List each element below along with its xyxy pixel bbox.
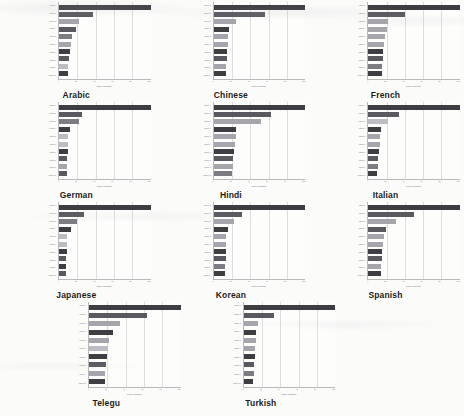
bar-row [89, 362, 181, 367]
y-axis-tick-label: feature 10 [358, 75, 365, 77]
bar [368, 134, 380, 139]
bar [368, 42, 384, 47]
x-axis-ticks: 020406080100 [213, 180, 306, 184]
bar [59, 56, 69, 61]
y-axis-labels: feature 1feature 2feature 3feature 4feat… [311, 102, 367, 180]
bar-row [59, 142, 151, 147]
bar-row [214, 212, 306, 217]
bar [368, 219, 395, 224]
bar-row [59, 27, 151, 32]
x-axis-title: relative importance [367, 184, 460, 187]
bar [368, 171, 377, 176]
panel-title: Italian [311, 190, 460, 200]
bars-plot [58, 102, 151, 180]
bar-row [89, 346, 181, 351]
bars-plot [367, 102, 460, 180]
y-axis-tick-label: feature 4 [50, 128, 56, 130]
y-axis-tick-label: feature 2 [204, 212, 210, 214]
bar-row [214, 71, 306, 76]
y-axis-tick-label: feature 7 [50, 51, 56, 53]
bar-row [368, 164, 460, 169]
x-axis: 020406080100relative importance [187, 388, 336, 397]
bar-row [59, 34, 151, 39]
y-axis-tick-label: feature 5 [204, 236, 210, 238]
bar-row [214, 64, 306, 69]
bar-row [368, 5, 460, 10]
bar-row [368, 56, 460, 61]
bar-row [368, 212, 460, 217]
plot-area: feature 1feature 2feature 3feature 4feat… [157, 202, 306, 280]
bar-row [59, 242, 151, 247]
bar [368, 212, 414, 217]
bar [214, 56, 228, 61]
y-axis-tick-label: feature 9 [204, 167, 210, 169]
bar [59, 242, 67, 247]
bar-row [368, 34, 460, 39]
x-axis: 020406080100relative importance [157, 280, 306, 289]
bar [89, 354, 107, 359]
y-axis-tick-label: feature 8 [50, 159, 56, 161]
bar [59, 12, 93, 17]
bar-row [89, 313, 181, 318]
bar-row [214, 5, 306, 10]
bars-plot [88, 302, 181, 388]
bar [214, 256, 226, 261]
bar-row [368, 12, 460, 17]
bar [214, 42, 229, 47]
bar-row [368, 156, 460, 161]
bar [59, 49, 70, 54]
y-axis-tick-label: feature 1 [204, 5, 210, 7]
y-axis-tick-label: feature 10 [358, 175, 365, 177]
bar-row [244, 321, 336, 326]
bar-row [244, 362, 336, 367]
bar [89, 338, 109, 343]
plot-area: feature 1feature 2feature 3feature 4feat… [311, 202, 460, 280]
bar-row [368, 271, 460, 276]
bar [368, 142, 380, 147]
y-axis-tick-label: feature 2 [234, 314, 240, 316]
bar-row [368, 19, 460, 24]
bar [214, 49, 228, 54]
chart-grid: feature 1feature 2feature 3feature 4feat… [0, 0, 464, 408]
panel-title: Arabic [2, 90, 151, 100]
y-axis-tick-label: feature 9 [359, 267, 365, 269]
y-axis-tick-label: feature 10 [49, 275, 56, 277]
bar [214, 156, 233, 161]
bar-row [59, 234, 151, 239]
y-axis-tick-label: feature 8 [204, 259, 210, 261]
y-axis-tick-label: feature 6 [204, 244, 210, 246]
bar-row [59, 227, 151, 232]
bar [244, 321, 259, 326]
bar [214, 234, 227, 239]
x-axis: 020406080100relative importance [311, 280, 460, 289]
bar-row [214, 234, 306, 239]
chart-panel-french: feature 1feature 2feature 3feature 4feat… [309, 0, 464, 100]
bar-row [368, 242, 460, 247]
bar-row [214, 164, 306, 169]
y-axis-tick-label: feature 9 [80, 374, 86, 376]
y-axis-tick-label: feature 7 [80, 357, 86, 359]
y-axis-tick-label: feature 5 [359, 236, 365, 238]
y-axis-tick-label: feature 1 [204, 105, 210, 107]
plot-area: feature 1feature 2feature 3feature 4feat… [157, 2, 306, 80]
y-axis-tick-label: feature 5 [50, 36, 56, 38]
y-axis-tick-label: feature 2 [50, 112, 56, 114]
bar [59, 27, 76, 32]
bar-row [59, 205, 151, 210]
y-axis-tick-label: feature 8 [204, 159, 210, 161]
plot-area: feature 1feature 2feature 3feature 4feat… [311, 102, 460, 180]
y-axis-tick-label: feature 8 [204, 59, 210, 61]
x-axis: 020406080100relative importance [157, 180, 306, 189]
bar-row [214, 105, 306, 110]
bar-row [368, 149, 460, 154]
bar-row [368, 205, 460, 210]
bar-row [368, 42, 460, 47]
bars-plot [213, 2, 306, 80]
y-axis-tick-label: feature 4 [80, 331, 86, 333]
x-axis: 020406080100relative importance [2, 80, 151, 89]
bar [214, 227, 229, 232]
y-axis-tick-label: feature 2 [359, 12, 365, 14]
bars-plot [213, 202, 306, 280]
bar-row [214, 242, 306, 247]
y-axis-tick-label: feature 7 [50, 151, 56, 153]
